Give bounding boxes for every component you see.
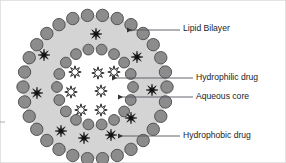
- label-hydrophobic-drug: Hydrophobic drug: [183, 130, 251, 140]
- lipid-head-bead: [41, 134, 53, 146]
- lipid-head-bead: [83, 119, 94, 130]
- lipid-head-bead: [23, 110, 35, 122]
- lipid-head-bead: [60, 106, 71, 117]
- hydrophobic-drug-star: [105, 129, 117, 141]
- hydrophilic-drug-star: [75, 104, 87, 116]
- hydrophilic-drug-star: [92, 67, 104, 79]
- label-aqueous-core: Aqueous core: [196, 91, 249, 101]
- hydrophobic-drug-star: [38, 49, 50, 61]
- lipid-head-bead: [109, 49, 120, 60]
- hydrophilic-drug-star: [65, 86, 77, 98]
- lipid-head-bead: [96, 152, 108, 163]
- label-lipid-bilayer: Lipid Bilayer: [183, 23, 230, 33]
- lipid-head-bead: [53, 18, 65, 30]
- lipid-head-bead: [18, 66, 30, 78]
- hydrophilic-drug-star: [108, 66, 120, 78]
- hydrophilic-drug-star: [95, 85, 107, 97]
- lipid-head-bead: [81, 152, 93, 163]
- lipid-head-bead: [67, 149, 79, 161]
- lipid-head-bead: [125, 95, 136, 106]
- hydrophobic-drug-star: [78, 132, 90, 144]
- hydrophobic-drug-star: [31, 87, 43, 99]
- lipid-head-bead: [53, 143, 65, 155]
- lipid-head-bead: [54, 69, 65, 80]
- lipid-head-bead: [17, 81, 29, 93]
- hydrophilic-drug-star: [95, 104, 107, 116]
- lipid-head-bead: [137, 27, 149, 39]
- lipid-head-bead: [96, 44, 107, 55]
- hydrophobic-drug-star: [146, 84, 158, 96]
- lipid-head-bead: [60, 57, 71, 68]
- hydrophobic-drug-star: [131, 51, 143, 63]
- hydrophilic-drug-star: [69, 66, 81, 78]
- hydrophobic-drug-star: [90, 28, 102, 40]
- lipid-head-bead: [96, 119, 107, 130]
- label-hydrophilic-drug: Hydrophilic drug: [196, 72, 258, 82]
- lipid-head-bead: [125, 18, 137, 30]
- liposome-diagram: Lipid BilayerHydrophilic drugAqueous cor…: [0, 0, 286, 163]
- lipid-head-bead: [54, 95, 65, 106]
- lipid-head-bead: [31, 123, 43, 135]
- lipid-head-bead: [111, 149, 123, 161]
- lipid-head-bead: [125, 143, 137, 155]
- lipid-head-bead: [18, 96, 30, 108]
- lipid-head-bead: [155, 52, 167, 64]
- lipid-head-bead: [159, 66, 171, 78]
- lipid-head-bead: [128, 82, 139, 93]
- liposome-diagram-page: Lipid BilayerHydrophilic drugAqueous cor…: [0, 0, 286, 163]
- lipid-head-bead: [41, 27, 53, 39]
- lipid-head-bead: [67, 12, 79, 24]
- hydrophobic-drug-star: [125, 112, 137, 124]
- lipid-head-bead: [147, 123, 159, 135]
- lipid-head-bead: [83, 44, 94, 55]
- lipid-head-bead: [155, 110, 167, 122]
- lipid-head-bead: [147, 38, 159, 50]
- lipid-head-bead: [119, 57, 130, 68]
- lipid-head-bead: [111, 12, 123, 24]
- lipid-head-bead: [71, 49, 82, 60]
- lipid-head-bead: [23, 52, 35, 64]
- lipid-head-bead: [71, 115, 82, 126]
- lipid-head-bead: [96, 9, 108, 21]
- lipid-head-bead: [161, 81, 173, 93]
- lipid-head-bead: [159, 96, 171, 108]
- lipid-head-bead: [109, 115, 120, 126]
- lipid-head-bead: [31, 38, 43, 50]
- hydrophobic-drug-star: [55, 125, 67, 137]
- lipid-head-bead: [52, 82, 63, 93]
- lipid-head-bead: [81, 9, 93, 21]
